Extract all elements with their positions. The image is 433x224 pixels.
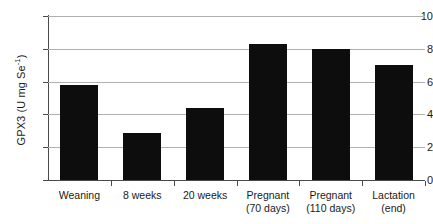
x-tick-mark — [237, 181, 238, 186]
gridline — [48, 49, 425, 50]
x-category-label-line1: Pregnant — [309, 189, 352, 201]
gridline — [48, 82, 425, 83]
bar — [186, 108, 224, 180]
bar — [123, 133, 161, 180]
x-category-label: Weaning — [48, 189, 111, 202]
x-tick-mark — [425, 181, 426, 186]
x-category-label: Pregnant(110 days) — [299, 189, 362, 215]
gridline — [48, 114, 425, 115]
plot-area — [48, 16, 425, 180]
x-category-label-line2: (70 days) — [237, 202, 300, 215]
y-axis-title-tail: ) — [15, 55, 27, 59]
x-category-label-line1: Weaning — [59, 189, 100, 201]
x-category-label-line1: 8 weeks — [123, 189, 162, 201]
y-axis-title-text: GPX3 (U mg Se — [15, 65, 27, 145]
bar — [312, 49, 350, 180]
bar — [60, 85, 98, 180]
x-category-label-line1: Pregnant — [247, 189, 290, 201]
bar-chart: GPX3 (U mg Se-1) 0246810 Weaning8 weeks2… — [0, 0, 433, 224]
x-category-label: Lactation(end) — [362, 189, 425, 215]
x-category-label-line1: 20 weeks — [183, 189, 227, 201]
x-category-label-line2: (110 days) — [299, 202, 362, 215]
x-tick-mark — [299, 181, 300, 186]
bar — [249, 44, 287, 180]
x-category-label-line2: (end) — [362, 202, 425, 215]
bar — [375, 65, 413, 180]
x-category-label: 8 weeks — [111, 189, 174, 202]
x-category-label-line1: Lactation — [372, 189, 415, 201]
gridline — [48, 16, 425, 17]
x-tick-mark — [362, 181, 363, 186]
y-axis-title: GPX3 (U mg Se-1) — [14, 10, 28, 190]
x-category-label: 20 weeks — [174, 189, 237, 202]
gridline — [48, 147, 425, 148]
x-tick-mark — [174, 181, 175, 186]
x-category-label: Pregnant(70 days) — [237, 189, 300, 215]
x-tick-mark — [111, 181, 112, 186]
y-axis-title-exponent: -1 — [13, 58, 22, 65]
